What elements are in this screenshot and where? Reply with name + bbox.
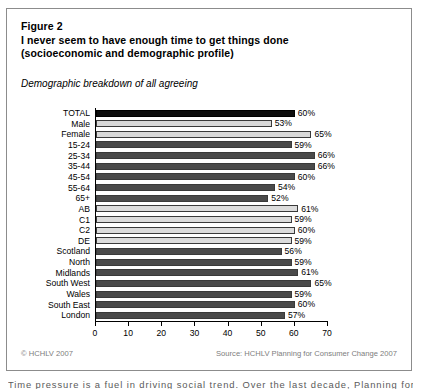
bar	[96, 312, 285, 319]
bar	[96, 195, 268, 202]
bar	[96, 248, 282, 255]
bar	[96, 237, 292, 244]
bar	[96, 110, 295, 117]
category-label: 65+	[75, 194, 90, 203]
category-label: C1	[79, 216, 90, 225]
figure-number: Figure 2	[21, 20, 401, 34]
y-axis-line	[95, 108, 96, 321]
figure-subtitle: Demographic breakdown of all agreeing	[21, 77, 198, 90]
bar	[96, 173, 295, 180]
bar-value-label: 60%	[298, 173, 315, 182]
category-label: North	[69, 258, 90, 267]
source-text: Source: HCHLV Planning for Consumer Chan…	[216, 349, 397, 358]
figure-title-line-1: I never seem to have enough time to get …	[21, 34, 401, 48]
bar-value-label: 56%	[285, 247, 302, 256]
x-axis-tick	[261, 322, 262, 326]
x-axis-tick	[294, 322, 295, 326]
category-label: C2	[79, 226, 90, 235]
category-label: Scotland	[57, 247, 90, 256]
category-label: South West	[46, 279, 90, 288]
category-label: Male	[71, 120, 90, 129]
bar	[96, 269, 298, 276]
bar	[96, 120, 272, 127]
bar	[96, 259, 292, 266]
bar	[96, 291, 292, 298]
x-axis-tick-label: 60	[289, 328, 299, 338]
bar	[96, 227, 295, 234]
bar-value-label: 59%	[295, 215, 312, 224]
bar	[96, 216, 292, 223]
bar-value-label: 66%	[318, 162, 335, 171]
x-axis-tick	[128, 322, 129, 326]
bar	[96, 152, 315, 159]
x-axis-tick-label: 30	[190, 328, 200, 338]
bar-value-label: 57%	[288, 311, 305, 320]
bar-value-label: 59%	[295, 141, 312, 150]
bar-value-label: 61%	[301, 205, 318, 214]
category-label: London	[61, 311, 90, 320]
bar	[96, 184, 275, 191]
category-axis: TOTALMaleFemale15-2425-3435-4445-5455-64…	[21, 108, 93, 321]
x-axis-tick-label: 10	[123, 328, 133, 338]
x-axis-tick-label: 40	[223, 328, 233, 338]
category-label: DE	[78, 237, 90, 246]
page-body-text: Time pressure is a fuel in driving socia…	[8, 379, 413, 389]
x-axis-tick-label: 50	[256, 328, 266, 338]
category-label: 35-44	[68, 162, 90, 171]
bar	[96, 205, 298, 212]
category-label: 45-54	[68, 173, 90, 182]
bar-value-label: 60%	[298, 109, 315, 118]
x-axis-tick-label: 0	[93, 328, 98, 338]
category-label: 15-24	[68, 141, 90, 150]
bar-chart: TOTALMaleFemale15-2425-3435-4445-5455-64…	[21, 108, 399, 343]
bar	[96, 131, 311, 138]
category-label: 25-34	[68, 152, 90, 161]
bar-value-label: 52%	[271, 194, 288, 203]
category-label: Female	[61, 130, 90, 139]
x-axis-tick	[161, 322, 162, 326]
x-axis-tick	[228, 322, 229, 326]
bar-value-label: 60%	[298, 226, 315, 235]
bar	[96, 141, 292, 148]
bar	[96, 163, 315, 170]
bar-value-label: 60%	[298, 300, 315, 309]
x-axis-tick-label: 20	[157, 328, 167, 338]
bar	[96, 280, 311, 287]
x-axis-tick	[95, 322, 96, 326]
figure-title-line-2: (socioeconomic and demographic profile)	[21, 47, 401, 61]
x-axis-tick	[194, 322, 195, 326]
category-label: Wales	[66, 290, 90, 299]
bar-value-label: 61%	[301, 268, 318, 277]
category-label: AB	[79, 205, 90, 214]
bar-value-label: 59%	[295, 237, 312, 246]
copyright-text: © HCHLV 2007	[21, 349, 73, 358]
category-label: TOTAL	[63, 109, 90, 118]
bar	[96, 301, 295, 308]
figure-box: Figure 2 I never seem to have enough tim…	[6, 8, 412, 371]
figure-header: Figure 2 I never seem to have enough tim…	[21, 20, 401, 61]
bar-value-label: 53%	[275, 119, 292, 128]
category-label: South East	[48, 301, 90, 310]
category-label: Midlands	[56, 269, 90, 278]
bar-value-label: 59%	[295, 290, 312, 299]
bar-value-label: 65%	[314, 130, 331, 139]
x-axis-tick	[327, 322, 328, 326]
plot-area: 60%53%65%59%66%66%60%54%52%61%59%60%59%5…	[95, 108, 327, 321]
bar-value-label: 59%	[295, 258, 312, 267]
bar-value-label: 65%	[314, 279, 331, 288]
x-axis-tick-label: 70	[322, 328, 332, 338]
bar-value-label: 66%	[318, 151, 335, 160]
category-label: 55-64	[68, 184, 90, 193]
bar-value-label: 54%	[278, 183, 295, 192]
